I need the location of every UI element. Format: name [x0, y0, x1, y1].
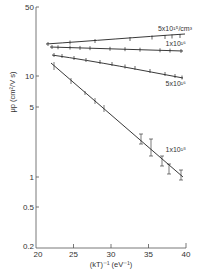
- series-markers: [48, 34, 182, 80]
- y-tick-label: 0.5: [23, 203, 35, 212]
- y-axis: [36, 7, 39, 248]
- x-tick-label: 40: [182, 250, 191, 259]
- y-axis-title: μp (cm²/V s): [8, 71, 17, 112]
- x-axis: [36, 243, 186, 248]
- y-tick-label: 10: [25, 72, 34, 81]
- series-line-5e16: [52, 55, 183, 78]
- y-tick-label: 50: [25, 3, 34, 12]
- series-label-5e16: 5x10¹⁶: [166, 80, 187, 87]
- x-tick-label: 30: [107, 250, 116, 259]
- series-label-1e18: 1x10¹⁸: [166, 146, 187, 153]
- y-tick-label: 5: [30, 103, 35, 112]
- x-tick-label: 25: [69, 250, 78, 259]
- series-label-5e15: 5x10¹⁵/cm³: [158, 25, 193, 32]
- x-tick-label: 35: [144, 250, 153, 259]
- y-tick-label: 1: [30, 173, 35, 182]
- mobility-chart: 50 10 5 1 0.5 0.2 20 25 30 35 40 (kT)⁻¹ …: [0, 0, 198, 272]
- x-tick-label: 20: [34, 250, 43, 259]
- x-axis-title: (kT)⁻¹ (eV⁻¹): [90, 260, 133, 269]
- series-label-1e16: 1x10¹⁶: [166, 40, 187, 47]
- series-line-5e15: [46, 34, 185, 44]
